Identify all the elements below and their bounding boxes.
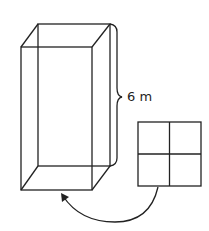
square-base-grid bbox=[138, 122, 201, 186]
diagram-canvas: 6 m bbox=[0, 0, 209, 231]
prism-back-face bbox=[38, 24, 110, 166]
height-label: 6 m bbox=[127, 89, 152, 104]
arrowhead-icon bbox=[61, 193, 69, 202]
prism-diagram bbox=[0, 0, 209, 231]
height-brace-icon bbox=[110, 24, 122, 166]
curved-arrow-icon bbox=[63, 187, 158, 222]
prism-edges bbox=[21, 24, 110, 190]
prism-front-face bbox=[21, 47, 92, 190]
